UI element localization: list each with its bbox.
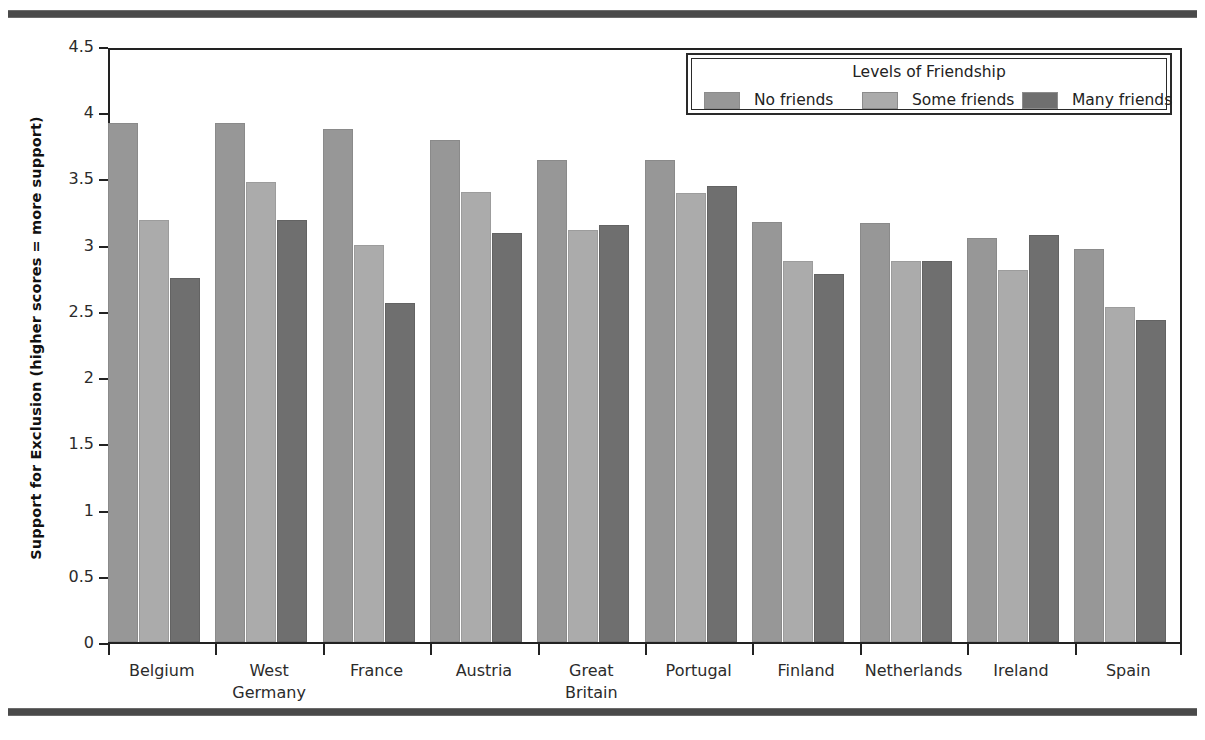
bar	[752, 222, 782, 642]
bar-group	[108, 50, 200, 642]
y-tick-mark	[99, 643, 108, 645]
bar	[139, 220, 169, 642]
top-rule	[8, 10, 1197, 18]
bar-body	[599, 225, 629, 642]
bar-body	[568, 230, 598, 642]
bar	[599, 225, 629, 642]
y-tick-mark	[99, 246, 108, 248]
y-tick-label: 2	[84, 368, 94, 387]
legend-title: Levels of Friendship	[692, 63, 1166, 81]
y-tick-label: 3	[84, 236, 94, 255]
bar	[1074, 249, 1104, 642]
bar-body	[1136, 320, 1166, 642]
bar	[707, 186, 737, 642]
x-axis-tick	[645, 644, 647, 655]
bar	[891, 261, 921, 642]
bar-body	[783, 261, 813, 642]
bar	[108, 123, 138, 642]
y-tick-label: 0	[84, 633, 94, 652]
plot-area	[108, 48, 1182, 644]
x-axis-tick	[1075, 644, 1077, 655]
x-axis-tick	[967, 644, 969, 655]
bar	[537, 160, 567, 642]
y-tick-mark	[99, 577, 108, 579]
bar	[645, 160, 675, 642]
bar-body	[354, 245, 384, 642]
bar-body	[277, 220, 307, 642]
y-tick-mark	[99, 511, 108, 513]
bar-body	[430, 140, 460, 642]
bar-body	[752, 222, 782, 642]
bar	[323, 129, 353, 642]
bar	[1105, 307, 1135, 642]
bar-body	[891, 261, 921, 642]
bar-body	[492, 233, 522, 642]
bar	[998, 270, 1028, 642]
bar-body	[461, 192, 491, 642]
y-tick-label: 4.5	[69, 37, 94, 56]
bar-body	[1074, 249, 1104, 642]
y-tick-mark	[99, 47, 108, 49]
bar-group	[752, 50, 844, 642]
legend-entry[interactable]: Many friends	[1022, 90, 1172, 110]
figure: 00.511.522.533.544.5 Support for Exclusi…	[0, 0, 1205, 740]
bar	[814, 274, 844, 642]
x-axis-label: Spain	[1053, 660, 1203, 682]
bar	[215, 123, 245, 642]
y-tick-label: 3.5	[69, 169, 94, 188]
bar-group	[430, 50, 522, 642]
bar-body	[108, 123, 138, 642]
bar-body	[246, 182, 276, 642]
x-axis-tick	[215, 644, 217, 655]
bar	[246, 182, 276, 642]
x-axis-label-line: Spain	[1053, 660, 1203, 682]
x-axis-tick	[1180, 644, 1182, 655]
bar	[277, 220, 307, 642]
y-tick-mark	[99, 179, 108, 181]
bar	[461, 192, 491, 642]
x-axis-tick	[538, 644, 540, 655]
bar-body	[967, 238, 997, 642]
x-axis-tick	[323, 644, 325, 655]
y-tick-label: 0.5	[69, 567, 94, 586]
x-axis: BelgiumWestGermanyFranceAustriaGreatBrit…	[108, 644, 1182, 734]
bar-group	[645, 50, 737, 642]
y-tick-mark	[99, 444, 108, 446]
bar-body	[860, 223, 890, 642]
y-tick-label: 1	[84, 501, 94, 520]
bar-group	[537, 50, 629, 642]
bar	[860, 223, 890, 642]
bar-body	[139, 220, 169, 642]
bar-body	[676, 193, 706, 642]
legend-swatch	[1022, 92, 1058, 109]
legend-label: No friends	[754, 91, 833, 109]
bar	[967, 238, 997, 642]
bar	[430, 140, 460, 642]
bar-body	[215, 123, 245, 642]
bar	[1029, 235, 1059, 642]
bar-group	[1074, 50, 1166, 642]
bar-group	[323, 50, 415, 642]
legend-swatch	[704, 92, 740, 109]
x-axis-tick	[860, 644, 862, 655]
legend-swatch	[862, 92, 898, 109]
legend-label: Some friends	[912, 91, 1014, 109]
bar-body	[922, 261, 952, 642]
y-tick-mark	[99, 312, 108, 314]
y-tick-mark	[99, 113, 108, 115]
bar-body	[707, 186, 737, 642]
bar-group	[860, 50, 952, 642]
y-tick-label: 1.5	[69, 434, 94, 453]
x-axis-tick	[752, 644, 754, 655]
legend-inner-border: Levels of Friendship No friendsSome frie…	[691, 58, 1167, 110]
bar-body	[1029, 235, 1059, 642]
legend-entry[interactable]: No friends	[704, 90, 833, 110]
bar-body	[323, 129, 353, 642]
bar-body	[170, 278, 200, 642]
y-axis-title: Support for Exclusion (higher scores = m…	[28, 68, 44, 608]
legend-entry[interactable]: Some friends	[862, 90, 1014, 110]
legend-label: Many friends	[1072, 91, 1172, 109]
bar	[354, 245, 384, 642]
bar	[922, 261, 952, 642]
y-axis: 00.511.522.533.544.5 Support for Exclusi…	[0, 0, 108, 740]
